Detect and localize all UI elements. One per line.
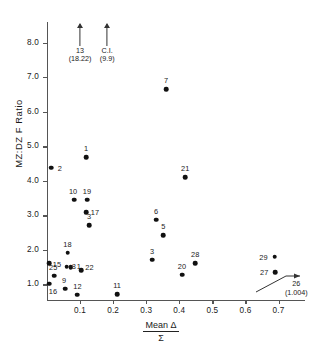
data-point-label: 3 — [87, 212, 91, 221]
y-axis-tick — [43, 181, 47, 182]
arrow-ci-caption: C.I.(9.9) — [100, 47, 115, 64]
x-axis-tick-label: 0.6 — [232, 306, 258, 315]
x-axis-tick-label: 0.4 — [166, 306, 192, 315]
x-axis-title-numerator: Mean Δ — [143, 320, 178, 332]
data-point-label: 10 — [69, 186, 77, 195]
y-axis-tick-label: 1.0 — [13, 279, 39, 288]
data-point — [75, 293, 80, 298]
arrow-head-icon — [104, 23, 110, 28]
data-point-label: 25 — [49, 262, 57, 271]
y-axis-tick-label: 6.0 — [13, 107, 39, 116]
data-point-label: 5 — [161, 222, 165, 231]
x-axis-tick-label: 0.7 — [266, 306, 292, 315]
y-axis-tick — [43, 250, 47, 251]
data-point-label: 29 — [259, 252, 267, 261]
x-axis-tick — [179, 300, 180, 304]
data-point-label: 18 — [63, 239, 71, 248]
y-axis-tick-label: 2.0 — [13, 245, 39, 254]
x-axis-tick — [146, 300, 147, 304]
data-point — [79, 268, 84, 273]
data-point-label: 11 — [113, 281, 121, 290]
y-axis-line — [47, 22, 48, 300]
scatter-plot-figure: MZ:DZ F Ratio Mean Δ Σ 1.02.03.04.05.06.… — [0, 0, 322, 350]
y-axis-tick-label: 5.0 — [13, 141, 39, 150]
data-point-label: 22 — [85, 262, 93, 271]
arrow-13-caption: 13(18.22) — [69, 47, 92, 64]
y-axis-tick — [43, 146, 47, 147]
y-axis-tick-label: 8.0 — [13, 38, 39, 47]
y-axis-tick-label: 4.0 — [13, 176, 39, 185]
x-axis-title-denominator: Σ — [143, 332, 178, 343]
data-point-label: 1 — [84, 144, 88, 153]
arrow-head-icon — [77, 23, 83, 28]
data-point-label: 21 — [181, 164, 189, 173]
y-axis-tick — [43, 43, 47, 44]
x-axis-tick-label: 0.3 — [133, 306, 159, 315]
x-axis-tick-label: 0.1 — [67, 306, 93, 315]
x-axis-line — [47, 300, 305, 301]
data-point-label: 20 — [178, 261, 186, 270]
data-point-label: 2 — [58, 163, 62, 172]
data-point-label: 12 — [73, 281, 81, 290]
x-axis-tick — [113, 300, 114, 304]
data-point — [72, 198, 77, 203]
data-point-label: 7 — [164, 76, 168, 85]
callout-26-text: 26(1.004) — [285, 280, 308, 297]
data-point — [154, 217, 159, 222]
data-point — [52, 274, 57, 279]
x-axis-tick-label: 0.5 — [199, 306, 225, 315]
data-point — [150, 257, 155, 262]
data-point — [49, 165, 54, 170]
x-axis-tick — [80, 300, 81, 304]
data-point — [69, 265, 74, 270]
data-point — [161, 233, 166, 238]
data-point — [87, 223, 92, 228]
data-point-label: 16 — [49, 286, 57, 295]
data-point — [193, 261, 198, 266]
x-axis-title: Mean Δ Σ — [0, 320, 322, 343]
data-point — [63, 286, 68, 291]
y-axis-title: MZ:DZ F Ratio — [13, 79, 24, 189]
data-point-label: 9 — [62, 275, 66, 284]
data-point-label: 19 — [83, 186, 91, 195]
data-point — [84, 155, 89, 160]
data-point — [85, 198, 90, 203]
y-axis-tick — [43, 215, 47, 216]
data-point-label: 17 — [91, 207, 99, 216]
data-point-label: 28 — [191, 250, 199, 259]
data-point — [65, 250, 70, 255]
x-axis-title-fraction: Mean Δ Σ — [143, 320, 178, 343]
data-point — [164, 87, 169, 92]
y-axis-tick-label: 3.0 — [13, 210, 39, 219]
data-point-label: 3 — [150, 246, 154, 255]
y-axis-tick — [43, 77, 47, 78]
data-point-label: 6 — [154, 206, 158, 215]
data-point — [180, 272, 185, 277]
x-axis-tick-label: 0.2 — [100, 306, 126, 315]
y-axis-tick — [43, 112, 47, 113]
data-point — [115, 292, 120, 297]
data-point — [183, 175, 188, 180]
data-point — [272, 255, 277, 260]
y-axis-tick-label: 7.0 — [13, 72, 39, 81]
x-axis-tick — [212, 300, 213, 304]
x-axis-tick — [279, 300, 280, 304]
x-axis-tick — [245, 300, 246, 304]
